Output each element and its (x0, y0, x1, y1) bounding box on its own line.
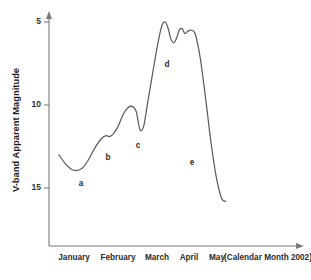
y-tick-label: 15 (32, 182, 42, 192)
y-axis-title: V-band Apparent Magnitude (10, 68, 21, 192)
curve-annotation-d: d (164, 60, 169, 69)
x-tick-label-may: May (209, 253, 225, 262)
curve-annotation-c: c (136, 141, 141, 150)
x-axis-caption: (Calendar Month 2002) (224, 253, 311, 262)
x-tick-label-january: January (58, 253, 90, 262)
y-tick-label: 5 (36, 16, 41, 26)
x-tick-label-february: February (100, 253, 135, 262)
light-curve-line (59, 22, 226, 201)
x-axis-arrow-icon (296, 243, 304, 249)
chart-canvas: 5 10 15 V-band Apparent Magnitude abcde … (0, 0, 311, 280)
y-axis (46, 11, 52, 246)
y-tick-label: 10 (32, 99, 42, 109)
x-tick-label-group: January February March April May (Calend… (58, 253, 311, 262)
y-tick-group: 5 10 15 (32, 16, 49, 192)
y-axis-arrow-icon (46, 11, 52, 19)
x-axis (49, 243, 304, 249)
curve-annotations: abcde (79, 60, 195, 188)
light-curve-chart: 5 10 15 V-band Apparent Magnitude abcde … (0, 0, 311, 280)
curve-annotation-a: a (79, 179, 84, 188)
x-tick-label-april: April (180, 253, 199, 262)
curve-annotation-b: b (105, 153, 110, 162)
curve-annotation-e: e (190, 158, 195, 167)
x-tick-label-march: March (145, 253, 169, 262)
